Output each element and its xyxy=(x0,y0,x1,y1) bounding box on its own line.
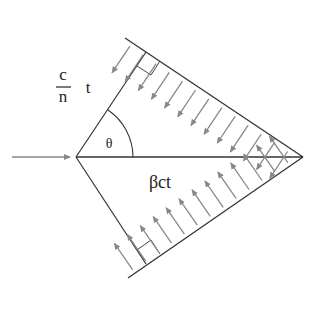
radiation-arrow-icon xyxy=(112,46,130,73)
radiation-arrow-icon xyxy=(192,190,210,216)
radiation-arrow-icon xyxy=(140,226,158,252)
radiation-arrow-icon xyxy=(257,145,275,171)
label-t: t xyxy=(86,78,91,97)
radiation-arrow-icon xyxy=(127,235,145,261)
radiation-arrow-icon xyxy=(218,172,236,198)
radiation-arrow-icon xyxy=(204,108,222,135)
label-theta: θ xyxy=(106,136,113,151)
radiation-arrow-icon xyxy=(152,72,170,99)
radiation-arrow-icon xyxy=(138,64,156,91)
radiation-arrow-icon xyxy=(115,244,133,270)
upper-right-angle-icon xyxy=(137,61,160,75)
radiation-arrow-icon xyxy=(244,154,262,180)
radiation-arrow-icon xyxy=(231,163,249,189)
radiation-arrow-icon xyxy=(178,90,196,117)
upper-radiation-arrows xyxy=(112,46,288,178)
radiation-arrow-icon xyxy=(191,99,209,126)
label-beta-ct: βct xyxy=(149,172,171,192)
radiation-arrow-icon xyxy=(165,81,183,108)
lower-right-angle-icon xyxy=(137,240,160,254)
radiation-arrow-icon xyxy=(257,143,275,170)
radiation-arrow-icon xyxy=(166,208,184,234)
radiation-arrow-icon xyxy=(179,199,197,225)
radiation-arrow-icon xyxy=(153,217,171,243)
cherenkov-diagram: c n t θ βct xyxy=(0,0,330,315)
radiation-arrow-icon xyxy=(230,125,248,152)
radiation-arrow-icon xyxy=(205,181,223,207)
radiation-arrow-icon xyxy=(217,116,235,143)
lower-radiation-arrows xyxy=(115,136,288,270)
label-n: n xyxy=(59,87,68,106)
lower-radius-line xyxy=(76,157,146,264)
label-c: c xyxy=(59,65,67,84)
upper-wavefront-line xyxy=(125,38,303,157)
